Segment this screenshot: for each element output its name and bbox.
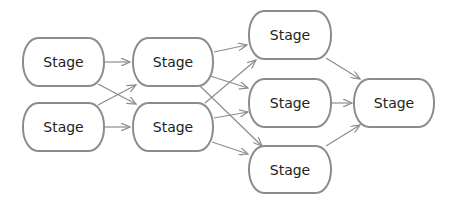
stage-label: Stage xyxy=(43,119,83,135)
stage-node: Stage xyxy=(132,37,214,87)
edge-arrow-n3-n5 xyxy=(214,45,247,52)
stage-node: Stage xyxy=(22,37,105,87)
stage-node: Stage xyxy=(22,102,105,152)
stage-label: Stage xyxy=(374,95,414,111)
edge-arrow-n1-n4 xyxy=(98,84,136,104)
edge-arrow-n5-n8 xyxy=(326,58,360,79)
edge-arrow-n2-n3 xyxy=(98,85,136,105)
stage-label: Stage xyxy=(270,162,310,178)
stage-label: Stage xyxy=(153,119,193,135)
stage-node: Stage xyxy=(132,102,214,152)
stage-label: Stage xyxy=(43,54,83,70)
stage-label: Stage xyxy=(153,54,193,70)
stage-node: Stage xyxy=(353,78,435,128)
edge-arrow-n4-n7 xyxy=(212,142,248,154)
stage-label: Stage xyxy=(270,95,310,111)
stage-node: Stage xyxy=(248,10,332,60)
stage-label: Stage xyxy=(270,27,310,43)
stage-node: Stage xyxy=(248,145,332,194)
edge-arrow-n7-n8 xyxy=(326,125,360,146)
stage-node: Stage xyxy=(248,78,332,128)
edge-arrow-n4-n6 xyxy=(214,112,248,118)
